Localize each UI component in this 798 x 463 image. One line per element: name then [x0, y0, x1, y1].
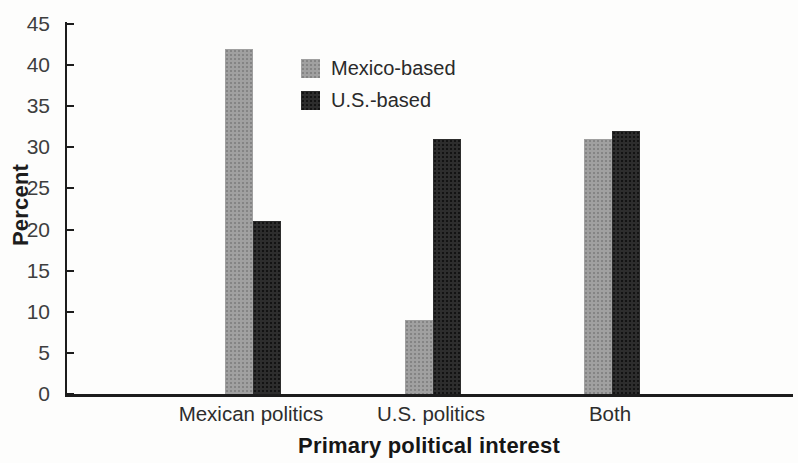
y-axis-tick — [67, 311, 74, 313]
y-axis-tick-label: 20 — [0, 219, 50, 241]
bar — [253, 221, 281, 394]
bar — [612, 131, 640, 394]
y-axis-tick — [67, 146, 74, 148]
legend: Mexico-basedU.S.-based — [301, 57, 456, 121]
y-axis-tick-label: 30 — [0, 136, 50, 158]
x-axis-category-labels: Mexican politicsU.S. politicsBoth — [0, 402, 798, 428]
y-axis-tick-label: 45 — [0, 13, 50, 35]
legend-swatch — [301, 91, 320, 110]
legend-label: U.S.-based — [331, 89, 431, 112]
y-axis-tick — [67, 393, 74, 395]
legend-row: U.S.-based — [301, 89, 456, 112]
y-axis-tick — [67, 352, 74, 354]
legend-row: Mexico-based — [301, 57, 456, 80]
y-axis-tick — [67, 187, 74, 189]
bar — [405, 320, 433, 394]
bar — [433, 139, 461, 394]
y-axis-tick — [67, 229, 74, 231]
legend-swatch — [301, 59, 320, 78]
y-axis-tick-label: 5 — [0, 342, 50, 364]
legend-label: Mexico-based — [331, 57, 456, 80]
y-axis-tick-label: 40 — [0, 54, 50, 76]
y-axis-tick — [67, 23, 74, 25]
y-axis-tick-labels: 051015202530354045 — [0, 22, 57, 394]
bar-chart-figure: Percent 051015202530354045 Mexico-basedU… — [0, 0, 798, 463]
y-axis-tick-label: 10 — [0, 301, 50, 323]
y-axis-tick-label: 35 — [0, 95, 50, 117]
y-axis-tick-label: 25 — [0, 177, 50, 199]
bar — [225, 49, 253, 394]
y-axis-tick — [67, 270, 74, 272]
bar — [584, 139, 612, 394]
y-axis-tick — [67, 64, 74, 66]
x-axis-title: Primary political interest — [129, 433, 729, 459]
y-axis-tick — [67, 105, 74, 107]
category-label: Both — [480, 402, 740, 426]
y-axis-tick-label: 15 — [0, 260, 50, 282]
